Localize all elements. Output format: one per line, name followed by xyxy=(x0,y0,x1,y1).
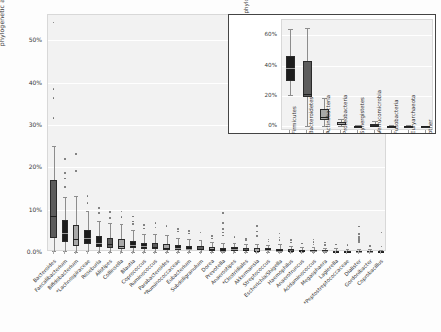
outlier-point xyxy=(256,231,258,233)
x-tick-mark xyxy=(267,251,268,254)
inset-x-tick-mark xyxy=(425,130,426,133)
outlier-point xyxy=(98,212,100,214)
outlier-point xyxy=(132,221,134,223)
inset-x-tick-label: Firmicutes xyxy=(291,106,297,134)
outlier-point xyxy=(222,212,224,214)
box xyxy=(73,225,79,247)
whisker-cap xyxy=(142,234,146,235)
outlier-point xyxy=(358,233,360,235)
y-tick-label: 50% xyxy=(8,36,42,43)
outlier-point xyxy=(132,216,134,218)
outlier-point xyxy=(53,117,55,119)
whisker-cap xyxy=(176,238,180,239)
x-tick-mark xyxy=(369,251,370,254)
x-tick-mark xyxy=(380,251,381,254)
box xyxy=(118,239,124,250)
x-tick-mark xyxy=(245,251,246,254)
median-line xyxy=(62,233,68,234)
outlier-point xyxy=(222,232,224,234)
outlier-point xyxy=(369,245,371,247)
x-tick-mark xyxy=(188,251,189,254)
x-tick-mark xyxy=(324,251,325,254)
inset-x-tick-label: Fusobacteria xyxy=(393,100,399,134)
whisker-cap xyxy=(278,244,282,245)
inset-y-tick-label: 0% xyxy=(253,122,277,128)
box xyxy=(303,61,312,97)
median-line xyxy=(130,245,136,246)
inset-phylum-panel: phylogenetic abundance (phylum level) 0%… xyxy=(228,14,436,134)
x-tick-mark xyxy=(346,251,347,254)
median-line xyxy=(96,243,102,244)
outlier-point xyxy=(177,228,179,230)
median-line xyxy=(220,251,226,252)
outlier-point xyxy=(155,222,157,224)
median-line xyxy=(107,244,113,245)
box xyxy=(107,238,113,249)
median-line xyxy=(276,251,282,252)
whisker-cap xyxy=(210,242,214,243)
outlier-point xyxy=(188,233,190,235)
outlier-point xyxy=(109,211,111,213)
inset-x-tick-label: Euryarchaeota xyxy=(410,95,416,134)
median-line xyxy=(141,246,147,247)
outlier-point xyxy=(121,216,123,218)
outlier-point xyxy=(143,228,145,230)
x-tick-mark xyxy=(166,251,167,254)
median-line xyxy=(333,252,339,253)
x-tick-mark xyxy=(335,251,336,254)
whisker-cap xyxy=(221,243,225,244)
whisker-cap xyxy=(165,235,169,236)
x-tick-mark xyxy=(143,251,144,254)
outlier-point xyxy=(381,246,383,248)
outlier-point xyxy=(222,235,224,237)
outlier-point xyxy=(358,226,360,228)
whisker-cap xyxy=(334,248,338,249)
outlier-point xyxy=(87,195,89,197)
inset-gridline xyxy=(282,35,432,36)
whisker-cap xyxy=(108,223,112,224)
x-tick-mark xyxy=(53,251,54,254)
outlier-point xyxy=(324,244,326,246)
whisker-cap xyxy=(199,240,203,241)
outlier-point xyxy=(53,22,55,24)
outlier-point xyxy=(245,239,247,241)
median-line xyxy=(163,248,169,249)
median-line xyxy=(288,251,294,252)
inset-x-tick-label: Synergistetes xyxy=(359,97,365,134)
outlier-point xyxy=(279,239,281,241)
outlier-point xyxy=(155,227,157,229)
median-line xyxy=(286,68,295,69)
outlier-point xyxy=(268,241,270,243)
outlier-point xyxy=(268,239,270,241)
outlier-point xyxy=(143,224,145,226)
outlier-point xyxy=(200,232,202,234)
outlier-point xyxy=(234,236,236,238)
median-line xyxy=(231,249,237,250)
whisker-cap xyxy=(357,249,361,250)
inset-x-tick-mark xyxy=(408,130,409,133)
outlier-point xyxy=(358,241,360,243)
y-tick-label: 20% xyxy=(8,163,42,170)
whisker-cap xyxy=(323,248,327,249)
outlier-point xyxy=(301,243,303,245)
box xyxy=(50,180,56,238)
inset-y-axis-label-line1: phylogenetic abundance xyxy=(243,0,249,14)
x-tick-mark xyxy=(109,251,110,254)
whisker-cap xyxy=(289,246,293,247)
whisker-cap xyxy=(131,230,135,231)
outlier-point xyxy=(121,211,123,213)
inset-y-tick-label: 60% xyxy=(253,31,277,37)
x-tick-mark xyxy=(358,251,359,254)
inset-x-tick-mark xyxy=(391,130,392,133)
whisker-cap xyxy=(305,28,310,29)
inset-y-tick-label: 40% xyxy=(253,62,277,68)
outlier-point xyxy=(109,217,111,219)
outlier-point xyxy=(211,238,213,240)
figure-canvas: phylogenetic abundance (genus level) 0.0… xyxy=(0,0,441,332)
outlier-point xyxy=(75,170,77,172)
whisker-cap xyxy=(244,244,248,245)
outlier-point xyxy=(335,244,337,246)
x-tick-mark xyxy=(154,251,155,254)
x-tick-mark xyxy=(290,251,291,254)
x-tick-mark xyxy=(313,251,314,254)
